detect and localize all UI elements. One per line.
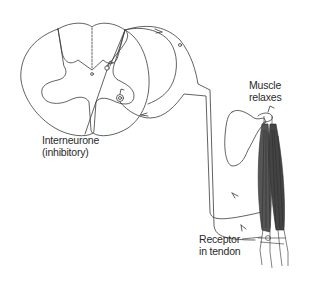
arrow-icon [232, 193, 238, 198]
motor-neurone-cell [117, 95, 124, 102]
spinal-cord-outline [21, 23, 149, 136]
arrow-icon [141, 113, 148, 116]
interneurone-label: Interneurone (inhibitory) [42, 134, 99, 158]
interneurone-cell [105, 66, 109, 70]
interneurone-leader-line [85, 70, 107, 134]
muscle [258, 116, 288, 268]
central-canal [91, 73, 94, 76]
sensory-fibre [108, 26, 255, 240]
arrow-icon [241, 225, 246, 231]
dorsal-root-lobe [125, 28, 176, 104]
grey-matter [42, 29, 134, 133]
muscle-relaxes-label: Muscle relaxes [249, 79, 281, 103]
arrow-icon [155, 29, 162, 33]
receptor-in-tendon-label: Receptor in tendon [199, 233, 240, 257]
